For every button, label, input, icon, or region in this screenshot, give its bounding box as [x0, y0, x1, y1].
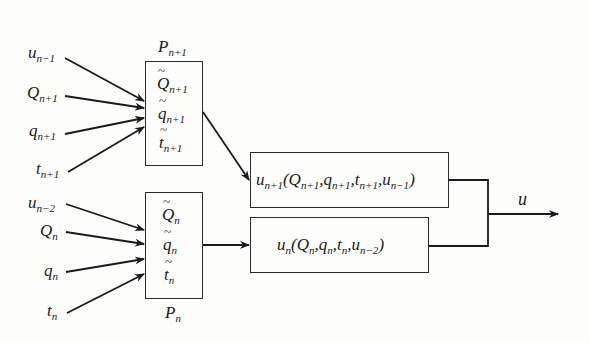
function-u-n-expression: un(Qn,qn,tn,un−2) [277, 235, 384, 256]
input-Q-n: Qn [40, 222, 58, 242]
input-q-n+1: qn+1 [29, 122, 56, 142]
input-u-n-1: un−1 [28, 44, 55, 64]
block-label-P-n+1: Pn+1 [158, 38, 187, 58]
input-t-n: tn [47, 302, 57, 322]
arrow-t-n [67, 274, 144, 313]
block-item-Q-tilde-n: Qn [162, 205, 180, 226]
arrow-Q-n+1 [65, 96, 144, 108]
block-P-n: Qn qn tn [145, 192, 203, 299]
arrow-u-n-1 [65, 58, 144, 101]
block-item-Q-tilde-n+1: Qn+1 [157, 74, 188, 95]
input-u-n-2: un−2 [28, 194, 55, 214]
block-item-q-tilde-n: qn [163, 235, 177, 256]
input-q-n: qn [44, 262, 58, 282]
arrow-q-n [66, 259, 144, 272]
arrow-Q-n [66, 232, 144, 244]
block-item-t-tilde-n+1: tn+1 [159, 133, 182, 154]
arrow-u-n-2 [66, 204, 144, 230]
arrow-t-n+1 [68, 127, 144, 172]
arrow-q-n+1 [65, 118, 144, 134]
function-u-n+1-expression: un+1(Qn+1,qn+1,tn+1,un−1) [256, 170, 415, 191]
output-label-u: u [518, 190, 527, 208]
block-P-n+1: Qn+1 qn+1 tn+1 [145, 61, 203, 166]
input-Q-n+1: Qn+1 [27, 84, 58, 104]
function-u-n: un(Qn,qn,tn,un−2) [250, 217, 429, 273]
block-label-P-n: Pn [165, 304, 181, 324]
arrow-P-n+1-to-u-n+1 [203, 112, 249, 180]
block-item-t-tilde-n: tn [164, 265, 174, 286]
function-u-n+1: un+1(Qn+1,qn+1,tn+1,un−1) [250, 152, 449, 208]
input-t-n+1: tn+1 [36, 160, 59, 180]
